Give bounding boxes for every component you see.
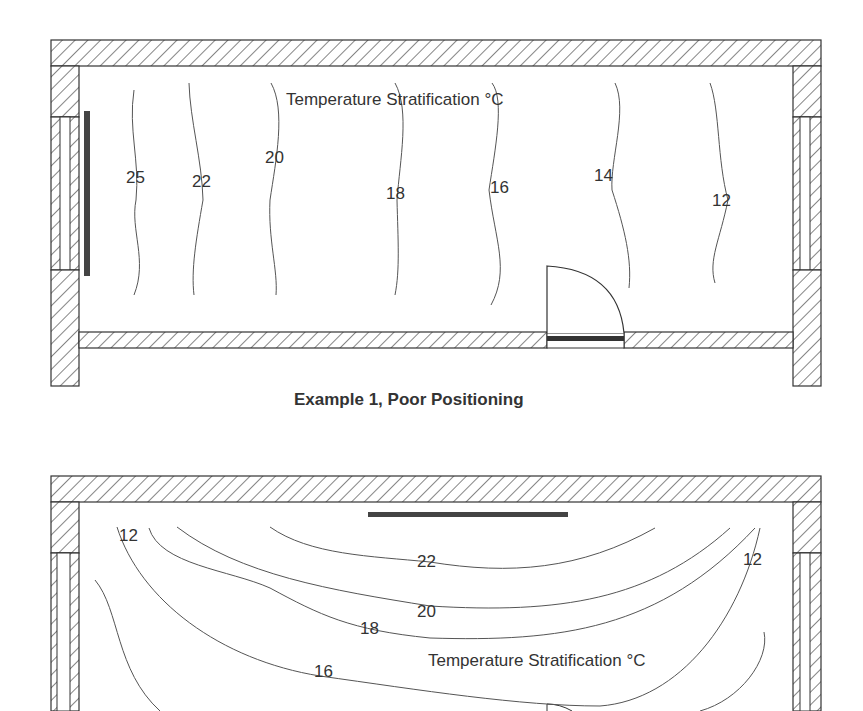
isotherm-label: 12 [119, 526, 138, 545]
radiator-heater [84, 111, 90, 276]
bottom-wall-left [79, 332, 547, 348]
isotherm-label: 12 [712, 191, 731, 210]
left-window [51, 553, 79, 711]
left-wall-upper [51, 502, 79, 553]
figure-1-floorplan: 25 22 20 18 16 14 12 Temperature Stratif… [51, 40, 821, 386]
right-wall-upper [793, 66, 821, 117]
isotherm-label: 20 [417, 602, 436, 621]
left-wall-lower [51, 270, 79, 386]
isotherm-label: 16 [314, 662, 333, 681]
isotherm-label: 20 [265, 148, 284, 167]
isotherm-label: 18 [386, 184, 405, 203]
top-wall [51, 40, 821, 66]
isotherm-label: 22 [192, 172, 211, 191]
top-wall [51, 476, 821, 502]
left-wall-upper [51, 66, 79, 117]
right-window [793, 117, 821, 270]
left-window [51, 117, 79, 270]
figure-2-floorplan: 12 22 20 18 16 12 Temperature Stratifica… [51, 476, 821, 711]
diagram-canvas: 25 22 20 18 16 14 12 Temperature Stratif… [0, 0, 863, 711]
figure-1-caption: Example 1, Poor Positioning [294, 390, 524, 409]
right-wall-upper [793, 502, 821, 553]
right-wall-lower [793, 270, 821, 386]
bottom-wall-right [624, 332, 793, 348]
figure-1-title: Temperature Stratification °C [286, 90, 504, 109]
isotherm-label: 12 [743, 550, 762, 569]
isotherm-label: 16 [490, 178, 509, 197]
right-window [793, 553, 821, 711]
isotherm-label: 18 [360, 619, 379, 638]
isotherm-label: 25 [126, 168, 145, 187]
isotherm-lines [132, 83, 728, 305]
door [547, 266, 624, 348]
figure-2-title: Temperature Stratification °C [428, 651, 646, 670]
radiator-heater [368, 512, 568, 517]
isotherm-label: 22 [417, 552, 436, 571]
isotherm-label: 14 [594, 166, 613, 185]
